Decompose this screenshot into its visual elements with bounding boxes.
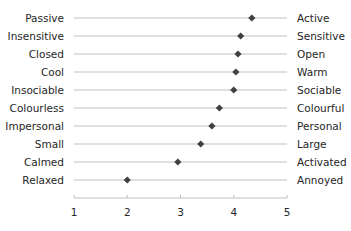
chart-row: PassiveActive: [25, 12, 329, 24]
left-anchor-label: Passive: [25, 12, 64, 24]
diamond-marker: [208, 122, 215, 129]
chart-row: InsociableSociable: [11, 84, 341, 96]
right-anchor-label: Open: [297, 48, 325, 60]
diamond-marker: [124, 176, 131, 183]
chart-row: CalmedActivated: [24, 156, 347, 168]
right-anchor-label: Sociable: [297, 84, 341, 96]
right-anchor-label: Active: [297, 12, 329, 24]
diamond-marker: [174, 158, 181, 165]
diamond-marker: [234, 50, 241, 57]
left-anchor-label: Closed: [29, 48, 64, 60]
tick-label: 2: [124, 206, 131, 218]
diamond-marker: [197, 140, 204, 147]
left-anchor-label: Impersonal: [5, 120, 64, 132]
left-anchor-label: Relaxed: [22, 174, 64, 186]
tick-label: 4: [230, 206, 237, 218]
right-anchor-label: Warm: [297, 66, 328, 78]
left-anchor-label: Insociable: [11, 84, 64, 96]
right-anchor-label: Annoyed: [297, 174, 343, 186]
chart-row: ImpersonalPersonal: [5, 120, 341, 132]
chart-row: RelaxedAnnoyed: [22, 174, 343, 186]
chart-row: InsensitiveSensitive: [8, 30, 345, 42]
diamond-marker: [248, 14, 255, 21]
semantic-differential-chart: PassiveActiveInsensitiveSensitiveClosedO…: [0, 0, 351, 231]
diamond-marker: [216, 104, 223, 111]
left-anchor-label: Insensitive: [8, 30, 64, 42]
chart-row: CoolWarm: [41, 66, 328, 78]
chart-rows: PassiveActiveInsensitiveSensitiveClosedO…: [5, 12, 346, 186]
tick-label: 3: [177, 206, 184, 218]
diamond-marker: [230, 86, 237, 93]
x-axis: 12345: [71, 195, 291, 218]
diamond-marker: [232, 68, 239, 75]
left-anchor-label: Calmed: [24, 156, 64, 168]
tick-label: 1: [71, 206, 78, 218]
right-anchor-label: Personal: [297, 120, 342, 132]
right-anchor-label: Activated: [297, 156, 347, 168]
chart-row: ColourlessColourful: [10, 102, 345, 114]
right-anchor-label: Sensitive: [297, 30, 345, 42]
right-anchor-label: Colourful: [297, 102, 344, 114]
chart-row: ClosedOpen: [29, 48, 325, 60]
diamond-marker: [237, 32, 244, 39]
left-anchor-label: Colourless: [10, 102, 64, 114]
tick-label: 5: [284, 206, 291, 218]
chart-row: SmallLarge: [35, 138, 327, 150]
left-anchor-label: Cool: [41, 66, 64, 78]
left-anchor-label: Small: [35, 138, 64, 150]
right-anchor-label: Large: [297, 138, 327, 150]
